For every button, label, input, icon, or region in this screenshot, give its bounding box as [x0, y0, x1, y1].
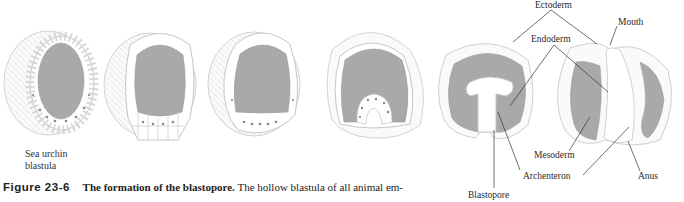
anus-label: Anus [638, 171, 658, 182]
stage-1-blastula [4, 31, 94, 135]
figure-number: Figure 23-6 [3, 181, 70, 193]
endoderm-label: Endoderm [531, 34, 571, 45]
figure-caption: Figure 23-6 The formation of the blastop… [3, 181, 403, 193]
archenteron-label: Archenteron [523, 171, 570, 182]
sea-urchin-blastula-label: Sea urchin blastula [25, 148, 68, 172]
stage-6-coelom [558, 43, 672, 145]
blastopore-formation-diagram [0, 0, 684, 202]
figure-title: The formation of the blastopore. [83, 181, 235, 193]
stage-4-invagination [327, 33, 423, 139]
stage-2-vegetal-plate [104, 33, 196, 140]
mouth-label: Mouth [618, 17, 643, 28]
label-line-1: Sea urchin [25, 148, 68, 160]
stage-3-thickened-plate [208, 32, 300, 136]
mesoderm-label: Mesoderm [534, 150, 575, 161]
ectoderm-label: Ectoderm [535, 0, 572, 11]
blastopore-label: Blastopore [468, 190, 509, 201]
figure-caption-text: The hollow blastula of all animal em- [237, 181, 403, 193]
stage-5-archenteron [438, 44, 533, 139]
label-line-2: blastula [25, 160, 68, 172]
